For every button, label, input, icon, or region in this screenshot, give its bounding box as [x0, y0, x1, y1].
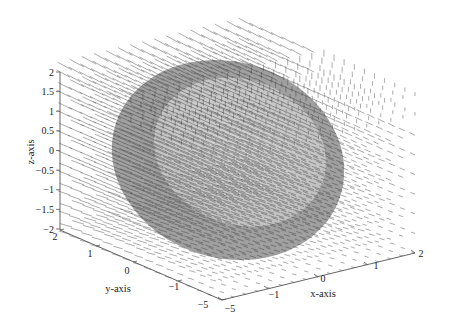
x-axis-title: x-axis	[310, 288, 336, 299]
z-tick-label: 0.5	[42, 125, 55, 136]
z-axis-ticks: 21.510.50−0.5−1−1.5−2	[36, 67, 60, 235]
y-tick-label: 2	[53, 231, 58, 242]
plot-canvas: 21.510.50−0.5−1−1.5−2 210−1−5 −5−1012 z-…	[0, 0, 455, 327]
z-axis-title: z-axis	[25, 139, 36, 164]
z-tick-label: 1	[49, 106, 54, 117]
y-tick-label: −1	[169, 281, 180, 292]
y-tick-label: 1	[88, 248, 93, 259]
x-tick-label: 1	[374, 260, 379, 271]
z-tick-label: 0	[49, 145, 54, 156]
y-tick-label: −5	[198, 299, 209, 310]
y-tick	[133, 261, 137, 262]
y-tick	[96, 245, 100, 246]
x-tick-label: 2	[419, 248, 424, 259]
z-tick-label: 2	[49, 67, 54, 78]
vector-field-plot: 21.510.50−0.5−1−1.5−2 210−1−5 −5−1012 z-…	[0, 0, 455, 327]
z-tick-label: −1	[43, 184, 54, 195]
z-tick-label: 1.5	[42, 86, 55, 97]
z-tick-label: −0.5	[36, 165, 54, 176]
x-tick-label: −1	[269, 289, 280, 300]
y-tick-label: 0	[125, 265, 130, 276]
x-tick-label: −5	[225, 303, 236, 314]
y-tick	[60, 229, 64, 230]
x-tick	[314, 274, 318, 277]
x-tick-label: 0	[321, 273, 326, 284]
y-axis-title: y-axis	[105, 283, 131, 294]
y-tick	[222, 299, 226, 300]
z-tick-label: −1.5	[36, 204, 54, 215]
